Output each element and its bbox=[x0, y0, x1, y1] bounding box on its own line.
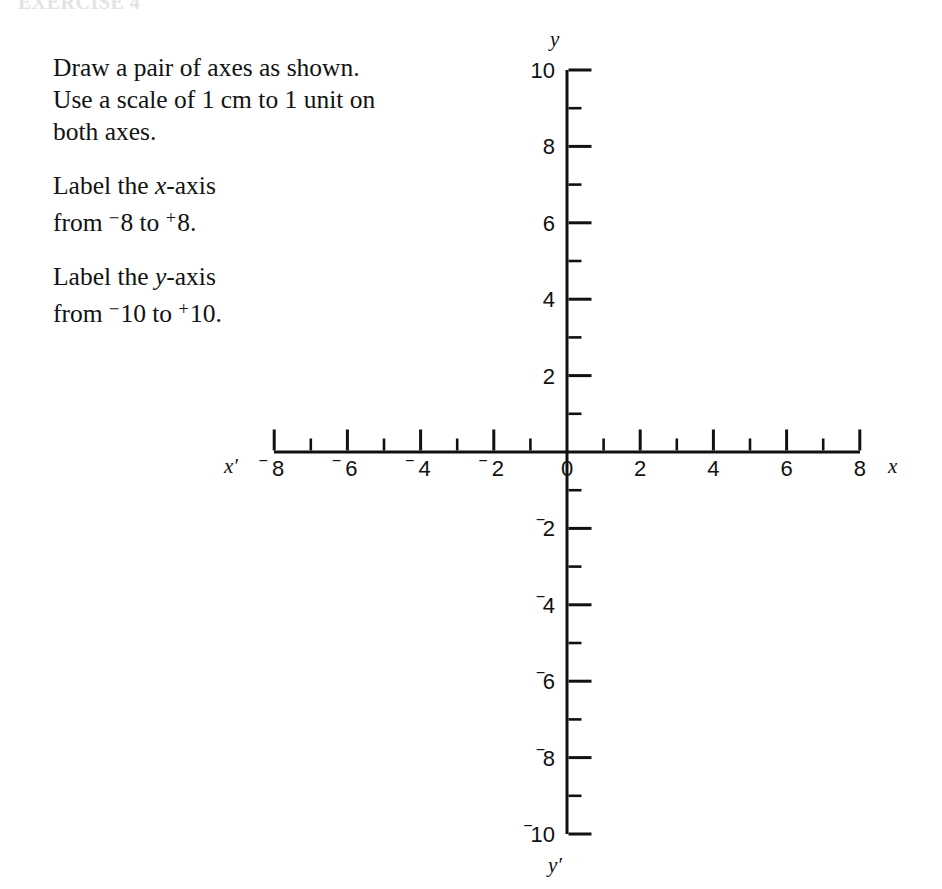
y-tick-value-2: 2 bbox=[543, 364, 555, 389]
y-tick-label-10: 10 bbox=[531, 58, 555, 83]
y-tick-label--2: 2− bbox=[536, 511, 555, 541]
x-prime-axis-label: x′ bbox=[223, 454, 238, 478]
y-tick-label--6: 6− bbox=[536, 664, 555, 694]
x-tick-sign--4: − bbox=[405, 452, 414, 469]
y-tick-label-6: 6 bbox=[543, 211, 555, 236]
y-tick-value--10: 10 bbox=[531, 822, 555, 847]
y-tick-value-4: 4 bbox=[543, 287, 555, 312]
y-prime-axis-label: y′ bbox=[546, 853, 562, 877]
y-tick-sign--6: − bbox=[536, 664, 545, 681]
x-tick-sign--2: − bbox=[478, 452, 487, 469]
y-tick-label-2: 2 bbox=[543, 364, 555, 389]
axes-group bbox=[274, 70, 860, 834]
x-tick-label-0: 0 bbox=[561, 456, 573, 481]
y-tick-sign--8: − bbox=[536, 741, 545, 758]
y-tick-label--8: 8− bbox=[536, 741, 555, 771]
coordinate-axes-figure: −8−6−4−202468 1086422−4−6−8−10− x x′ y y… bbox=[0, 0, 942, 889]
x-tick-label-6: 6 bbox=[780, 456, 792, 481]
x-tick-label--6: −6 bbox=[332, 452, 358, 481]
y-tick-sign--4: − bbox=[536, 588, 545, 605]
x-axis-tick-labels: −8−6−4−202468 bbox=[259, 452, 866, 481]
y-tick-sign--2: − bbox=[536, 511, 545, 528]
x-tick-value-4: 4 bbox=[707, 456, 719, 481]
x-tick-label--2: −2 bbox=[478, 452, 504, 481]
x-tick-value-6: 6 bbox=[780, 456, 792, 481]
x-tick-label--8: −8 bbox=[259, 452, 285, 481]
x-tick-value--6: 6 bbox=[345, 456, 357, 481]
x-tick-value--8: 8 bbox=[272, 456, 284, 481]
y-tick-label--10: 10− bbox=[523, 817, 555, 847]
x-tick-value-8: 8 bbox=[854, 456, 866, 481]
y-tick-label-8: 8 bbox=[543, 134, 555, 159]
x-tick-sign--8: − bbox=[259, 452, 268, 469]
y-tick-label--4: 4− bbox=[536, 588, 555, 618]
x-axis-label: x bbox=[887, 454, 898, 478]
x-tick-value--4: 4 bbox=[418, 456, 430, 481]
y-tick-sign--10: − bbox=[523, 817, 532, 834]
x-tick-value-2: 2 bbox=[634, 456, 646, 481]
y-tick-value-8: 8 bbox=[543, 134, 555, 159]
x-tick-sign--6: − bbox=[332, 452, 341, 469]
x-tick-label--4: −4 bbox=[405, 452, 431, 481]
x-tick-value-0: 0 bbox=[561, 456, 573, 481]
x-tick-label-4: 4 bbox=[707, 456, 719, 481]
figure-page: EXERCISE 4 Draw a pair of axes as shown.… bbox=[0, 0, 942, 889]
y-tick-value-6: 6 bbox=[543, 211, 555, 236]
x-tick-value--2: 2 bbox=[492, 456, 504, 481]
y-axis-label: y bbox=[548, 27, 560, 51]
x-tick-label-8: 8 bbox=[854, 456, 866, 481]
x-tick-label-2: 2 bbox=[634, 456, 646, 481]
y-tick-label-4: 4 bbox=[543, 287, 555, 312]
y-tick-value-10: 10 bbox=[531, 58, 555, 83]
